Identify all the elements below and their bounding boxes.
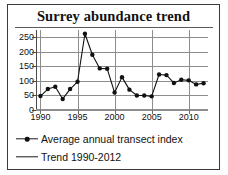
chart-figure: Surrey abundance trend 050100150200250 1… xyxy=(0,0,228,175)
legend-item-average-annual-transect-index: Average annual transect index xyxy=(14,130,214,148)
plot-area xyxy=(36,30,208,110)
data-series-layer xyxy=(36,30,208,110)
chart-title: Surrey abundance trend xyxy=(8,5,219,27)
data-point-2011 xyxy=(194,82,198,86)
gridline-y-0 xyxy=(36,110,208,111)
x-tick-2005 xyxy=(152,110,153,114)
data-point-1992 xyxy=(53,85,57,89)
x-tick-1990 xyxy=(40,110,41,114)
data-point-1998 xyxy=(98,66,102,70)
data-point-2006 xyxy=(157,72,161,76)
legend-marker-line-with-dot-icon xyxy=(14,132,40,146)
y-axis-tick-labels: 050100150200250 xyxy=(8,30,34,110)
legend-label-0: Average annual transect index xyxy=(41,133,183,145)
data-point-1996 xyxy=(83,32,87,36)
data-point-1991 xyxy=(46,87,50,91)
data-point-2008 xyxy=(172,81,176,85)
data-point-1993 xyxy=(60,97,64,101)
data-point-2009 xyxy=(179,78,183,82)
data-point-1995 xyxy=(75,80,79,84)
chart-legend: Average annual transect index Trend 1990… xyxy=(14,130,214,168)
data-point-2000 xyxy=(112,90,116,94)
y-tick-0 xyxy=(32,110,36,111)
legend-marker-line-icon xyxy=(14,150,40,164)
legend-item-trend: Trend 1990-2012 xyxy=(14,148,214,166)
x-tick-2010 xyxy=(189,110,190,114)
data-point-1994 xyxy=(68,87,72,91)
data-point-1990 xyxy=(38,94,42,98)
series-line-0 xyxy=(40,34,203,99)
data-point-2007 xyxy=(164,73,168,77)
title-divider xyxy=(15,27,213,28)
data-point-1997 xyxy=(90,53,94,57)
data-point-2004 xyxy=(142,93,146,97)
data-point-2002 xyxy=(127,87,131,91)
data-point-2012 xyxy=(201,81,205,85)
data-point-2001 xyxy=(120,75,124,79)
data-point-2010 xyxy=(187,78,191,82)
x-tick-2000 xyxy=(115,110,116,114)
data-point-2003 xyxy=(135,93,139,97)
data-point-2005 xyxy=(149,94,153,98)
x-axis-tick-labels: 19901995200020052010 xyxy=(36,112,208,125)
legend-label-1: Trend 1990-2012 xyxy=(41,151,121,163)
data-point-1999 xyxy=(105,66,109,70)
x-tick-1995 xyxy=(78,110,79,114)
